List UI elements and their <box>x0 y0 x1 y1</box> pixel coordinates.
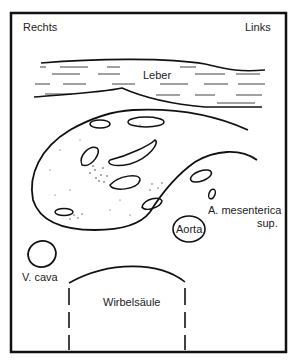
label-links: Links <box>245 21 271 33</box>
label-wirbelsaeule: Wirbelsäule <box>103 296 160 308</box>
spine <box>69 266 185 350</box>
label-aorta: Aorta <box>176 223 203 235</box>
label-sup: sup. <box>257 217 278 229</box>
label-rechts: Rechts <box>23 21 58 33</box>
label-v-cava: V. cava <box>22 271 59 283</box>
vena-cava <box>24 237 59 271</box>
liver <box>34 59 265 107</box>
diagram-canvas: Rechts Links Leber <box>0 0 292 361</box>
label-a-mesenterica: A. mesenterica <box>208 204 282 216</box>
label-leber: Leber <box>143 69 171 81</box>
